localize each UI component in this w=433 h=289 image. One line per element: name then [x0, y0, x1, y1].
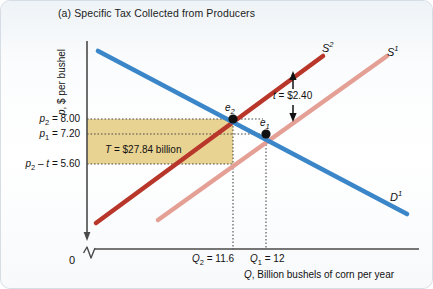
point-label-e2: e2 [225, 102, 235, 116]
point-label-e1: e1 [260, 117, 270, 131]
y-tick-label-p1: p1 = 7.20 [39, 128, 80, 142]
y-tick-label-p2-minus-t: p2 – t = 5.60 [26, 158, 81, 172]
tax-amount-annotation: t = $2.40 [273, 90, 312, 101]
curve-label-s1: S1 [387, 44, 399, 58]
x-tick-label-Q2: Q2 = 11.6 [192, 253, 234, 267]
tax-revenue-annotation: T = $27.84 billion [105, 144, 181, 155]
x-axis-title: Q, Billion bushels of corn per year [244, 269, 394, 280]
economics-figure: (a) Specific Tax Collected from Producer… [0, 0, 433, 289]
origin-label: 0 [69, 254, 75, 266]
curve-label-d1: D1 [390, 189, 402, 203]
x-tick-label-Q1: Q1 = 12 [250, 253, 284, 267]
curve-label-s2: S2 [322, 40, 334, 54]
tax-revenue-rectangle [87, 119, 233, 164]
y-axis-arrowhead [84, 232, 91, 241]
axis-break-symbol [84, 247, 96, 258]
y-tick-label-p2: p2 = 8.00 [39, 113, 80, 127]
